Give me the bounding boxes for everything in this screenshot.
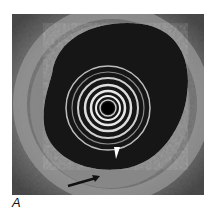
transducer-core xyxy=(102,102,114,114)
ultrasound-image xyxy=(12,14,204,195)
panel-label: A xyxy=(12,196,21,210)
